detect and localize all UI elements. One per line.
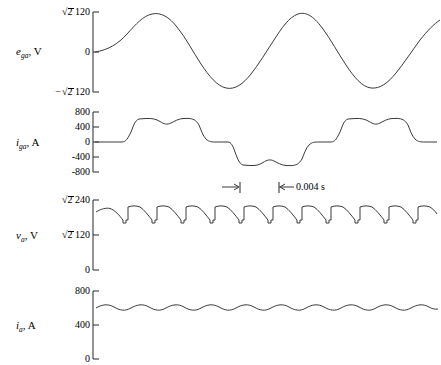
plot-line-current (0, 105, 441, 180)
panel-line-current: iga, A 800 400 0 -400 -800 (0, 105, 441, 180)
plot-dc-current (0, 282, 441, 365)
panel-dc-voltage: va, V √2 240 √2 120 0 (0, 190, 441, 280)
panel-dc-current: ia, A 800 400 0 (0, 282, 441, 365)
waveform-trace-source-voltage (95, 13, 440, 88)
waveform-trace-dc-current (96, 305, 438, 310)
waveform-trace-line-current (95, 118, 437, 165)
waveform-figure: ega, V √2 120 0 −√2 120 iga, A 800 (0, 0, 441, 365)
panel-source-voltage: ega, V √2 120 0 −√2 120 (0, 0, 441, 105)
plot-dc-voltage (0, 190, 441, 280)
plot-source-voltage (0, 0, 441, 105)
waveform-trace-dc-voltage (96, 206, 437, 223)
